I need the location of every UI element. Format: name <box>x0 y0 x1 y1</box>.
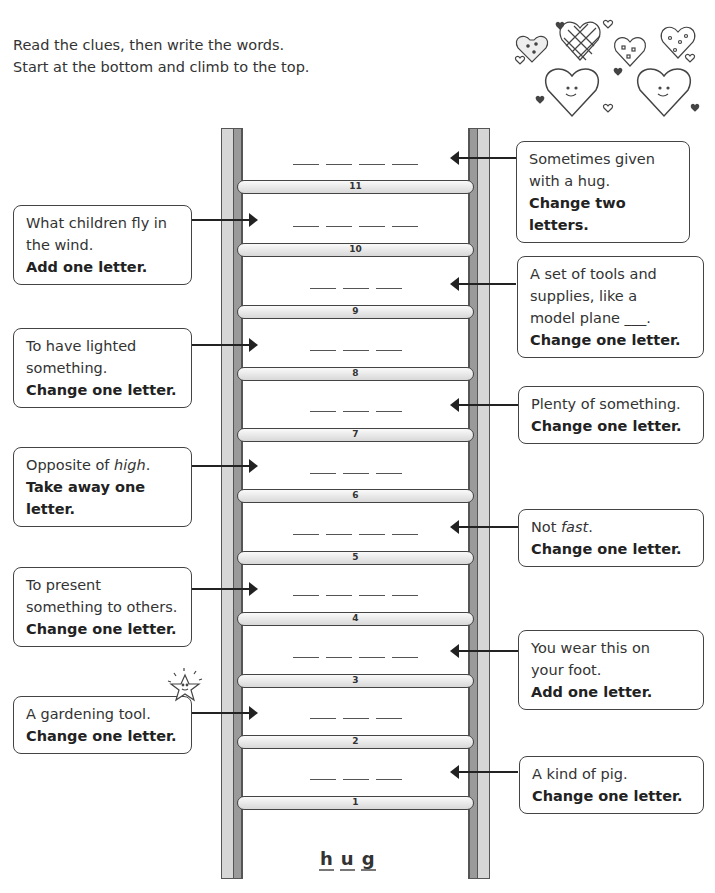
rung-1: 1 <box>237 796 474 810</box>
rung-6: 6 <box>237 489 474 503</box>
answer-blanks-1[interactable] <box>237 778 474 780</box>
clue-text: the wind. <box>26 234 181 256</box>
instruction-line-1: Read the clues, then write the words. <box>13 34 309 56</box>
rung-11: 11 <box>237 180 474 194</box>
clue-instruction: Change one letter. <box>531 541 682 557</box>
answer-blanks-8[interactable] <box>237 349 474 351</box>
start-word: hug <box>316 848 379 871</box>
clue-box-3: You wear this on your foot. Add one lett… <box>518 630 704 710</box>
answer-blanks-3[interactable] <box>237 656 474 658</box>
arrow-left-icon <box>456 283 516 285</box>
clue-instruction: Take away one <box>26 479 145 495</box>
rung-7: 7 <box>237 428 474 442</box>
start-letter-1: h <box>319 849 334 871</box>
clue-box-11: Sometimes given with a hug. Change two l… <box>516 141 690 243</box>
arrow-left-icon <box>456 404 518 406</box>
arrow-left-icon <box>456 157 516 159</box>
clue-text: model plane ___. <box>530 307 693 329</box>
clue-text: Opposite of high. <box>26 454 181 476</box>
arrow-right-icon <box>192 712 252 714</box>
clue-box-1: A kind of pig. Change one letter. <box>519 756 704 814</box>
clue-instruction: Change one letter. <box>26 728 177 744</box>
answer-blanks-5[interactable] <box>237 533 474 535</box>
arrow-right-icon <box>192 588 252 590</box>
arrow-left-icon <box>456 526 518 528</box>
arrow-left-icon <box>456 650 518 652</box>
star-icon <box>160 667 210 707</box>
answer-blanks-9[interactable] <box>237 287 474 289</box>
clue-text: with a hug. <box>529 170 679 192</box>
clue-box-9: A set of tools and supplies, like a mode… <box>517 256 704 358</box>
rung-2: 2 <box>237 735 474 749</box>
rung-9: 9 <box>237 305 474 319</box>
clue-instruction: letter. <box>26 501 75 517</box>
clue-box-10: What children fly in the wind. Add one l… <box>13 205 192 285</box>
clue-text: A set of tools and <box>530 263 693 285</box>
ladder-left-rail <box>221 128 243 879</box>
clue-box-7: Plenty of something. Change one letter. <box>518 386 704 444</box>
answer-blanks-2[interactable] <box>237 717 474 719</box>
hearts-illustration-icon <box>500 8 710 123</box>
clue-text: Plenty of something. <box>531 393 693 415</box>
answer-blanks-6[interactable] <box>237 472 474 474</box>
ladder-right-rail <box>468 128 490 879</box>
rung-3: 3 <box>237 674 474 688</box>
clue-text: your foot. <box>531 659 693 681</box>
arrow-right-icon <box>192 465 252 467</box>
answer-blanks-7[interactable] <box>237 410 474 412</box>
clue-text: To present <box>26 574 181 596</box>
clue-instruction: Change one letter. <box>26 382 177 398</box>
clue-text: supplies, like a <box>530 285 693 307</box>
start-letter-3: g <box>361 849 376 871</box>
arrow-left-icon <box>456 771 518 773</box>
clue-instruction: Add one letter. <box>531 684 652 700</box>
clue-text: Sometimes given <box>529 148 679 170</box>
answer-blanks-11[interactable] <box>237 163 474 165</box>
clue-box-8: To have lighted something. Change one le… <box>13 328 192 408</box>
clue-text: A kind of pig. <box>532 763 693 785</box>
instructions: Read the clues, then write the words. St… <box>13 34 309 78</box>
clue-instruction: Change two letters. <box>529 195 626 233</box>
clue-box-6: Opposite of high. Take away one letter. <box>13 447 192 527</box>
clue-text: A gardening tool. <box>26 703 181 725</box>
clue-instruction: Change one letter. <box>531 418 682 434</box>
rung-5: 5 <box>237 551 474 565</box>
clue-box-4: To present something to others. Change o… <box>13 567 192 647</box>
clue-text: something to others. <box>26 596 181 618</box>
clue-text: Not fast. <box>531 516 693 538</box>
clue-text: something. <box>26 357 181 379</box>
rung-10: 10 <box>237 243 474 257</box>
clue-instruction: Change one letter. <box>26 621 177 637</box>
clue-instruction: Add one letter. <box>26 259 147 275</box>
answer-blanks-4[interactable] <box>237 594 474 596</box>
instruction-line-2: Start at the bottom and climb to the top… <box>13 56 309 78</box>
rung-4: 4 <box>237 612 474 626</box>
clue-text: To have lighted <box>26 335 181 357</box>
answer-blanks-10[interactable] <box>237 225 474 227</box>
clue-box-5: Not fast. Change one letter. <box>518 509 704 567</box>
rung-8: 8 <box>237 367 474 381</box>
arrow-right-icon <box>192 219 252 221</box>
arrow-right-icon <box>192 344 252 346</box>
clue-instruction: Change one letter. <box>530 332 681 348</box>
clue-text: What children fly in <box>26 212 181 234</box>
clue-text: You wear this on <box>531 637 693 659</box>
clue-instruction: Change one letter. <box>532 788 683 804</box>
start-letter-2: u <box>340 849 355 871</box>
